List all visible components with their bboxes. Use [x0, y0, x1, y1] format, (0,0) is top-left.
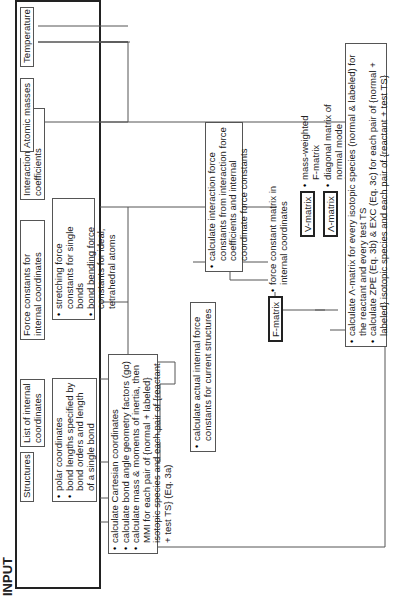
desc: mass-weighted F-matrix: [300, 112, 321, 187]
final-calc-box: calculate Λ-matrix for every isotopic sp…: [345, 43, 387, 347]
actual-force-box: calculate actual internal force constant…: [190, 302, 216, 452]
temperature-box: Temperature: [20, 7, 34, 67]
force-constants-box: Force constants for internal coordinates: [20, 220, 45, 340]
lambda-matrix-label: Λ-matrix: [323, 191, 338, 237]
note: stretching force constants for single bo…: [54, 202, 86, 316]
step: calculate Cartesian coordinates: [110, 358, 121, 550]
input-heading: INPUT: [0, 557, 15, 596]
structures-notes-box: polar coordinates bond lengths specified…: [52, 378, 97, 502]
internal-coordinates-box: List of internal coordinates: [20, 379, 45, 447]
force-constant-notes-box: stretching force constants for single bo…: [52, 198, 95, 320]
step: calculate Λ-matrix for every isotopic sp…: [347, 47, 368, 343]
f-matrix-desc: force constant matrix in internal coordi…: [268, 162, 289, 292]
step: calculate interaction force constants fr…: [207, 126, 249, 268]
note: bond lengths specified by bond orders an…: [65, 382, 97, 498]
step: calculate mass & moments of inertia, the…: [131, 358, 173, 550]
v-matrix-desc: mass-weighted F-matrix: [300, 112, 321, 187]
note: polar coordinates: [54, 382, 65, 498]
desc: force constant matrix in internal coordi…: [268, 162, 289, 292]
v-matrix-label: V-matrix: [300, 191, 315, 237]
cartesian-calc-box: calculate Cartesian coordinates calculat…: [108, 354, 158, 554]
interaction-calc-box: calculate interaction force constants fr…: [205, 122, 243, 272]
atomic-masses-box: Atomic masses: [20, 78, 34, 152]
structures-box: Structures: [20, 452, 34, 502]
f-matrix-label: F-matrix: [268, 296, 283, 342]
note: bond bending force constants for ideal, …: [86, 202, 118, 316]
step: calculate actual internal force constant…: [192, 306, 213, 448]
flowchart: INPUT Structures List of internal coordi…: [0, 0, 412, 602]
step: calculate ZPE (Eq. 3b) & EXC (Eq. 3c) fo…: [368, 47, 389, 343]
